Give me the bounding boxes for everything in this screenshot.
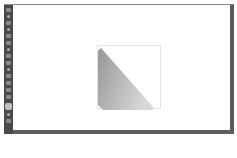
warp-icon[interactable]	[6, 74, 11, 78]
scale-icon[interactable]	[7, 68, 10, 71]
window-right-border	[230, 5, 234, 134]
gradient-icon[interactable]	[6, 88, 11, 92]
pencil-icon[interactable]	[6, 54, 11, 58]
artboard-canvas[interactable]	[13, 5, 230, 130]
status-bar	[13, 130, 234, 134]
type-icon[interactable]	[7, 28, 10, 31]
fill-stroke-icon[interactable]	[5, 103, 12, 110]
shape-builder-icon[interactable]	[6, 81, 11, 85]
pen-icon[interactable]	[6, 21, 11, 25]
screen-mode-icon[interactable]	[6, 119, 11, 123]
eyedropper-icon[interactable]	[6, 95, 11, 99]
draw-mode-icon[interactable]	[7, 113, 10, 116]
rotate-icon[interactable]	[6, 61, 11, 65]
rectangle-icon[interactable]	[6, 41, 11, 45]
direct-select-icon[interactable]	[7, 15, 10, 18]
selection-bounding-box[interactable]	[97, 45, 161, 109]
half-circle-shape[interactable]	[98, 46, 162, 110]
tools-panel	[4, 5, 13, 134]
select-icon[interactable]	[6, 8, 11, 12]
app-window	[4, 4, 234, 134]
brush-icon[interactable]	[7, 48, 10, 51]
line-icon[interactable]	[6, 34, 11, 38]
